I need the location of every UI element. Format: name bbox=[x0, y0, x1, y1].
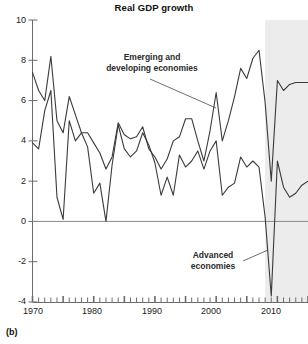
y-tick-label-8: 8 bbox=[2, 55, 26, 65]
x-tick-label-1970: 1970 bbox=[13, 306, 53, 316]
y-tick-label-neg4: -4 bbox=[2, 296, 26, 306]
x-tick-label-1990: 1990 bbox=[132, 306, 172, 316]
y-tick-label-2: 2 bbox=[2, 176, 26, 186]
y-tick-label-neg2: -2 bbox=[2, 256, 26, 266]
annotation-emerging: Emerging and developing economies bbox=[82, 52, 222, 73]
x-tick-label-2000: 2000 bbox=[191, 306, 231, 316]
leader-line-advanced bbox=[243, 250, 268, 261]
y-tick-label-0: 0 bbox=[2, 216, 26, 226]
annotation-advanced-line1: Advanced bbox=[182, 250, 244, 261]
annotation-advanced: Advanced economies bbox=[182, 250, 244, 271]
y-tick-label-4: 4 bbox=[2, 135, 26, 145]
figure-panel: Real GDP growth 10 8 6 4 2 0 -2 -4 1970 … bbox=[0, 0, 308, 344]
y-tick-label-6: 6 bbox=[2, 95, 26, 105]
annotation-emerging-line1: Emerging and bbox=[82, 52, 222, 63]
projection-shading bbox=[265, 20, 308, 302]
y-tick-label-10: 10 bbox=[2, 15, 26, 25]
panel-caption: (b) bbox=[6, 327, 18, 337]
leader-line-emerging bbox=[150, 79, 216, 108]
annotation-emerging-line2: developing economies bbox=[82, 63, 222, 74]
x-tick-label-2010: 2010 bbox=[251, 306, 291, 316]
annotation-advanced-line2: economies bbox=[182, 261, 244, 272]
x-tick-label-1980: 1980 bbox=[72, 306, 112, 316]
